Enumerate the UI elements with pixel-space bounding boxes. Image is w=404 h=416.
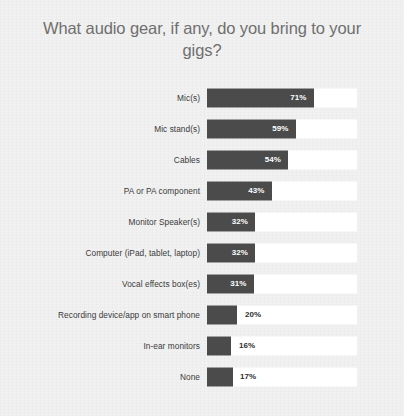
bar-category-label: Monitor Speaker(s) [12,217,200,227]
bar-category-label: Mic stand(s) [12,124,200,134]
bar-category-label: Cables [12,155,200,165]
bar-value-label: 17% [240,372,256,381]
bar-value-label: 16% [239,341,255,350]
bar-row: Monitor Speaker(s) 32% [12,206,392,237]
bar-row: None 17% [12,361,392,392]
source-caption [0,405,404,416]
bar-row: PA or PA component 43% [12,175,392,206]
bar-fill: 32% [207,243,255,262]
bar-row: In-ear monitors 16% [12,330,392,361]
bar-track: 71% [207,88,357,107]
bar-category-label: Computer (iPad, tablet, laptop) [12,248,200,258]
bar-fill: 54% [207,150,288,169]
bar-track: 32% [207,243,357,262]
bar-track: 43% [207,181,357,200]
bar-fill [207,336,231,355]
bar-fill: 71% [207,88,314,107]
bar-value-label: 20% [245,310,261,319]
bar-fill: 59% [207,119,296,138]
bar-track: 20% [207,305,357,324]
bar-value-label: 54% [265,155,281,164]
bar-fill [207,305,237,324]
bar-row: Mic(s) 71% [12,82,392,113]
bar-row: Vocal effects box(es) 31% [12,268,392,299]
bar-value-label: 32% [232,248,248,257]
bar-value-label: 59% [272,124,288,133]
bar-fill: 43% [207,181,272,200]
bar-row: Mic stand(s) 59% [12,113,392,144]
bar-category-label: In-ear monitors [12,341,200,351]
bar-fill: 31% [207,274,254,293]
bar-row: Recording device/app on smart phone 20% [12,299,392,330]
bar-chart-plot-area: Mic(s) 71% Mic stand(s) 59% Cables [12,82,392,392]
bar-category-label: Vocal effects box(es) [12,279,200,289]
bar-row: Computer (iPad, tablet, laptop) 32% [12,237,392,268]
bar-category-label: PA or PA component [12,186,200,196]
chart-card: What audio gear, if any, do you bring to… [12,8,392,394]
bar-value-label: 32% [232,217,248,226]
bar-category-label: Mic(s) [12,93,200,103]
bar-value-label: 43% [248,186,264,195]
bar-fill: 32% [207,212,255,231]
bar-value-label: 71% [290,93,306,102]
bar-track: 59% [207,119,357,138]
bar-row: Cables 54% [12,144,392,175]
bar-track: 16% [207,336,357,355]
bar-value-label: 31% [230,279,246,288]
bar-fill [207,367,233,386]
bar-track: 17% [207,367,357,386]
bar-category-label: None [12,372,200,382]
chart-page: What audio gear, if any, do you bring to… [0,0,404,416]
bar-track: 32% [207,212,357,231]
chart-title: What audio gear, if any, do you bring to… [12,8,392,62]
bar-track: 31% [207,274,357,293]
bar-category-label: Recording device/app on smart phone [12,310,200,320]
bar-track: 54% [207,150,357,169]
